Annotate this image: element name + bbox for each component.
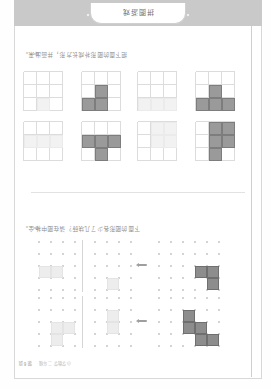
- grid-line: [24, 71, 63, 72]
- grid-dot: [50, 241, 51, 242]
- grid-dot: [38, 297, 39, 298]
- grid-dot: [158, 277, 159, 278]
- grid-dot: [130, 277, 131, 278]
- grid-line: [24, 160, 63, 161]
- grid-dot: [62, 289, 63, 290]
- grid-dot: [194, 253, 195, 254]
- grid-dot: [158, 289, 159, 290]
- grid-dot: [170, 241, 171, 242]
- answer-4-cell: [37, 98, 50, 111]
- grid-dot: [170, 289, 171, 290]
- grid-dot: [94, 265, 95, 266]
- L-tromino-prompt-cell: [207, 266, 219, 278]
- grid-dot: [118, 345, 119, 346]
- grid-dot: [130, 297, 131, 298]
- grid-dot: [94, 333, 95, 334]
- instruction-text-top: 下面的图形各少了几块砖？请在图中补全。: [22, 225, 140, 233]
- grid-dot: [130, 333, 131, 334]
- grid-line: [137, 122, 138, 161]
- grid-line: [24, 84, 63, 85]
- S-tetromino-prompt-cell: [183, 322, 195, 334]
- grid-dot: [106, 345, 107, 346]
- grid-dot: [94, 309, 95, 310]
- grid-dot: [206, 297, 207, 298]
- grid-dot: [130, 289, 131, 290]
- grid-line: [62, 72, 63, 111]
- option-2b-cell: [51, 266, 63, 278]
- S-tetromino-prompt-cell: [207, 334, 219, 346]
- grid-dot: [170, 277, 171, 278]
- S-shape-1-cell: [222, 122, 235, 135]
- grid-line: [138, 71, 177, 72]
- grid-line: [138, 160, 177, 161]
- L-tromino-prompt-cell: [195, 266, 207, 278]
- grid-dot: [158, 321, 159, 322]
- grid-dot: [182, 265, 183, 266]
- T-shape-3-cell: [196, 98, 209, 111]
- grid-dot: [170, 265, 171, 266]
- S-shape-1-cell: [209, 148, 222, 161]
- grid-dot: [218, 309, 219, 310]
- grid-dot: [170, 321, 171, 322]
- grid-dot: [74, 277, 75, 278]
- grid-dot: [94, 253, 95, 254]
- grid-dot: [74, 241, 75, 242]
- grid-dot: [170, 333, 171, 334]
- grid-dot: [106, 253, 107, 254]
- grid-dot: [194, 241, 195, 242]
- option-1a-cell: [107, 322, 119, 334]
- row-1-arrow: [138, 320, 147, 322]
- grid-dot: [218, 321, 219, 322]
- option-1b-cell: [63, 322, 75, 334]
- answer-1-cell: [164, 135, 177, 148]
- grid-dot: [106, 297, 107, 298]
- grid-dot: [38, 321, 39, 322]
- answer-2-cell: [50, 135, 63, 148]
- scanned-page: 小学数学 二年级 第6页 下面的图形各少了几块砖？请在图中补全。 把下面的图形补…: [0, 0, 271, 389]
- grid-dot: [158, 297, 159, 298]
- T-shape-2-cell: [108, 135, 121, 148]
- grid-dot: [182, 277, 183, 278]
- grid-dot: [218, 297, 219, 298]
- section-divider: [31, 192, 245, 193]
- grid-dot: [218, 253, 219, 254]
- grid-line: [82, 121, 121, 122]
- L-tromino-prompt-cell: [207, 278, 219, 290]
- grid-dot: [50, 297, 51, 298]
- grid-dot: [118, 297, 119, 298]
- grid-dot: [74, 265, 75, 266]
- grid-dot: [130, 241, 131, 242]
- tab-notch-left: [186, 13, 190, 17]
- row-1-option-divider: [82, 296, 83, 348]
- header-page-number: 第6页: [18, 361, 32, 366]
- answer-3-cell: [164, 98, 177, 111]
- grid-dot: [158, 345, 159, 346]
- grid-line: [24, 121, 63, 122]
- grid-line: [120, 72, 121, 111]
- grid-dot: [74, 297, 75, 298]
- S-shape-4-cell: [95, 85, 108, 98]
- answer-2-cell: [24, 135, 37, 148]
- T-shape-3-cell: [209, 98, 222, 111]
- grid-dot: [74, 253, 75, 254]
- grid-dot: [38, 253, 39, 254]
- grid-dot: [130, 309, 131, 310]
- grid-dot: [130, 265, 131, 266]
- grid-dot: [74, 345, 75, 346]
- grid-dot: [118, 241, 119, 242]
- instruction-text-bottom: 把下面的图形补成长方形，并画出来。: [22, 51, 127, 59]
- option-1b-cell: [51, 322, 63, 334]
- grid-dot: [170, 297, 171, 298]
- answer-1-cell: [151, 122, 164, 135]
- option-1a-cell: [107, 310, 119, 322]
- grid-dot: [182, 345, 183, 346]
- T-shape-2-cell: [82, 135, 95, 148]
- grid-dot: [50, 309, 51, 310]
- grid-dot: [206, 253, 207, 254]
- header-title: 小学数学 二年级: [38, 361, 70, 366]
- grid-dot: [206, 241, 207, 242]
- grid-dot: [206, 309, 207, 310]
- S-shape-1-cell: [209, 135, 222, 148]
- grid-dot: [74, 289, 75, 290]
- grid-dot: [158, 309, 159, 310]
